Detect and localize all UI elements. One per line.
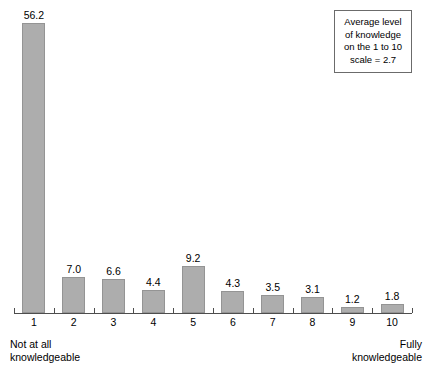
x-axis-tick-1 [54,308,55,313]
axis-endpoint-right: Fully knowledgeable [352,338,422,364]
bar-group-3: 6.6 [102,279,125,313]
x-tick-label-3: 3 [111,316,117,328]
bar-value-label-4: 4.4 [146,277,161,288]
bar-value-label-10: 1.8 [385,291,400,302]
bar-5 [182,266,205,313]
plot-area: 56.27.06.64.49.24.33.53.11.21.8 [0,0,434,313]
x-tick-label-9: 9 [349,316,355,328]
x-axis-tick-0 [14,308,15,313]
bar-group-8: 3.1 [301,297,324,313]
bar-value-label-6: 4.3 [226,278,241,289]
bar-value-label-9: 1.2 [345,294,360,305]
x-tick-label-4: 4 [150,316,156,328]
x-axis-tick-2 [94,308,95,313]
x-axis-tick-7 [293,308,294,313]
bar-group-1: 56.2 [22,23,45,313]
bar-group-6: 4.3 [221,291,244,313]
x-tick-label-2: 2 [71,316,77,328]
bar-4 [142,290,165,313]
x-axis-tick-3 [133,308,134,313]
bar-group-4: 4.4 [142,290,165,313]
bar-1 [22,23,45,313]
x-tick-label-6: 6 [230,316,236,328]
bar-group-2: 7.0 [62,277,85,313]
axis-endpoint-left-line-1: Not at all [10,338,80,351]
axis-endpoint-right-line-2: knowledgeable [352,351,422,364]
x-axis-tick-5 [213,308,214,313]
bar-value-label-1: 56.2 [24,10,44,21]
x-tick-label-10: 10 [386,316,398,328]
bar-7 [261,295,284,313]
x-axis-tick-10 [412,308,413,313]
x-tick-label-5: 5 [190,316,196,328]
bar-group-10: 1.8 [381,304,404,313]
x-axis-tick-8 [332,308,333,313]
bar-2 [62,277,85,313]
bar-3 [102,279,125,313]
x-tick-label-7: 7 [270,316,276,328]
x-axis-tick-9 [372,308,373,313]
bar-value-label-5: 9.2 [186,253,201,264]
bar-group-7: 3.5 [261,295,284,313]
bar-chart: Average level of knowledge on the 1 to 1… [0,0,434,376]
bar-value-label-3: 6.6 [106,266,121,277]
axis-endpoint-right-line-1: Fully [352,338,422,351]
bar-value-label-2: 7.0 [66,264,81,275]
x-axis-tick-4 [173,308,174,313]
x-axis-line [14,313,412,314]
bar-8 [301,297,324,313]
bar-6 [221,291,244,313]
x-axis-tick-6 [253,308,254,313]
bar-value-label-8: 3.1 [305,284,320,295]
axis-endpoint-left: Not at all knowledgeable [10,338,80,364]
bar-10 [381,304,404,313]
bar-group-5: 9.2 [182,266,205,313]
bar-value-label-7: 3.5 [265,282,280,293]
x-tick-label-1: 1 [31,316,37,328]
axis-endpoint-left-line-2: knowledgeable [10,351,80,364]
x-tick-label-8: 8 [310,316,316,328]
